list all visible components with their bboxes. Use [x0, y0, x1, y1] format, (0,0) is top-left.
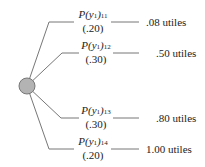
branch-1-utility: .08 utiles — [146, 16, 186, 28]
branch-4-probability: (.20) — [73, 150, 113, 161]
branch-2-line — [27, 53, 79, 86]
branch-1-probability: (.20) — [73, 23, 113, 34]
branch-1-line — [27, 22, 74, 86]
branch-4-utility: 1.00 utiles — [146, 143, 192, 155]
branch-3-label: P(y1)13 (.30) — [76, 105, 116, 130]
branch-2-utility: .50 utiles — [156, 47, 196, 59]
branch-4-label: P(y1)14 (.20) — [73, 136, 113, 161]
branch-3-utility: .80 utiles — [156, 112, 196, 124]
branch-2-probability: (.30) — [76, 54, 116, 65]
branch-3-line — [27, 86, 79, 118]
branch-1-label: P(y1)11 (.20) — [73, 9, 113, 34]
branch-3-probability: (.30) — [76, 119, 116, 130]
branch-2-label: P(y1)12 (.30) — [76, 40, 116, 65]
chance-node-circle — [19, 78, 35, 94]
